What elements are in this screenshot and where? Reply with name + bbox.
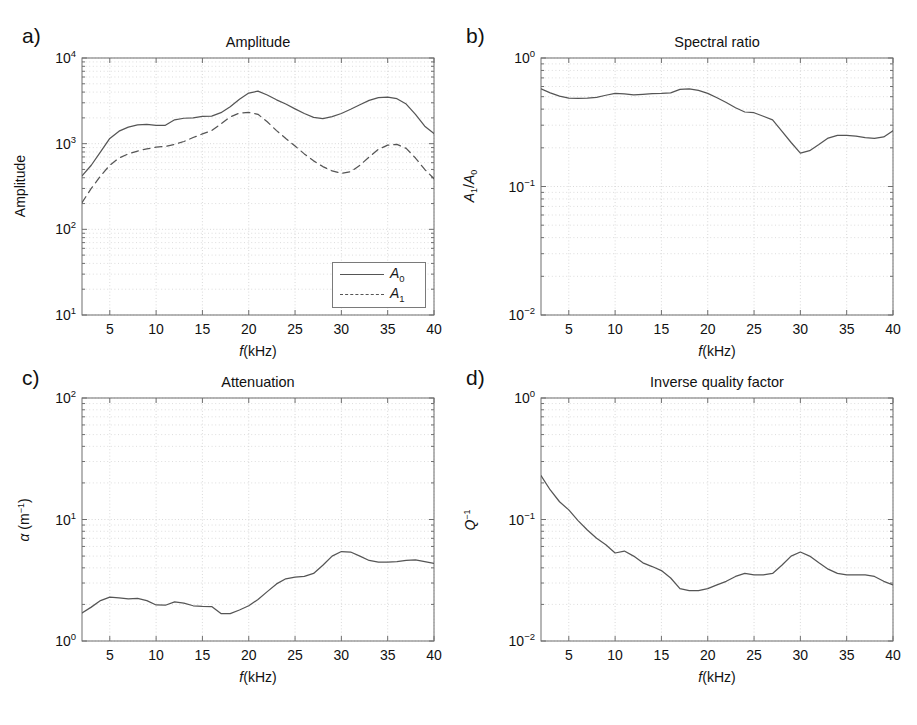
y-axis-label: Q−1	[462, 509, 479, 530]
panel-d-plot	[0, 0, 917, 725]
x-tick-label: 30	[780, 647, 820, 663]
y-tick-label: 100	[483, 388, 535, 406]
x-tick-label: 40	[873, 647, 913, 663]
x-tick-label: 5	[549, 647, 589, 663]
panel-d: d)Inverse quality factor5101520253035401…	[0, 0, 917, 725]
x-axis-label: f(kHz)	[541, 669, 893, 685]
y-tick-label: 10−1	[483, 510, 535, 528]
panel-title-d: Inverse quality factor	[541, 374, 893, 390]
x-tick-label: 10	[595, 647, 635, 663]
series-Qinv	[541, 476, 893, 591]
x-tick-label: 35	[827, 647, 867, 663]
figure-root: a)Amplitude510152025303540101102103104f(…	[0, 0, 917, 725]
panel-label-d: d)	[466, 366, 485, 390]
x-tick-label: 15	[641, 647, 681, 663]
x-tick-label: 25	[734, 647, 774, 663]
gridlines	[541, 398, 893, 641]
x-tick-label: 20	[688, 647, 728, 663]
y-tick-label: 10−2	[483, 631, 535, 649]
